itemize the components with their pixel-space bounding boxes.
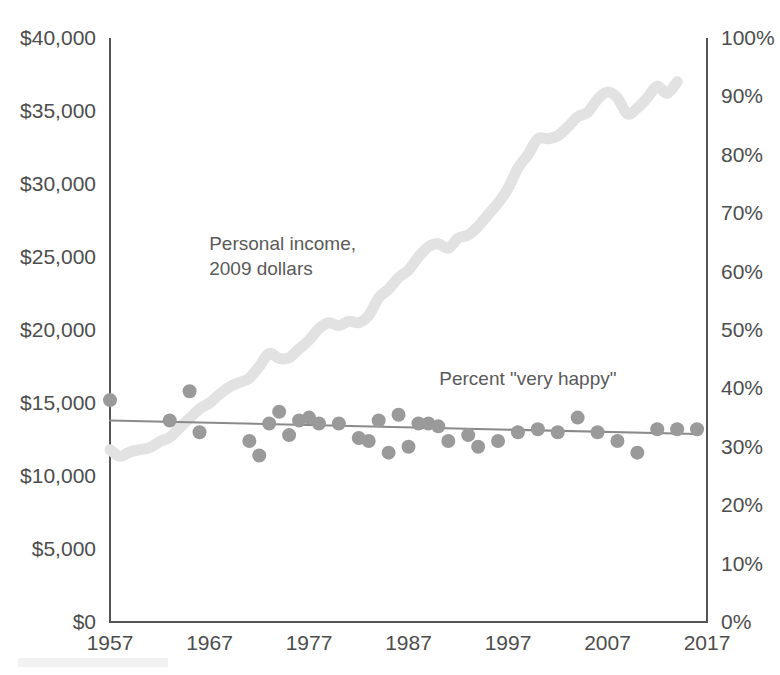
scatter-point	[312, 416, 326, 430]
y-right-tick-label: 70%	[721, 201, 763, 224]
scatter-point	[402, 440, 416, 454]
chart-canvas: $0$5,000$10,000$15,000$20,000$25,000$30,…	[0, 0, 780, 675]
scatter-point	[571, 411, 585, 425]
happy-scatter-series	[103, 384, 704, 462]
y-left-tick-label: $20,000	[20, 318, 96, 341]
x-tick-label: 1967	[186, 631, 233, 654]
scatter-point	[242, 434, 256, 448]
income-line-path	[110, 82, 677, 457]
y-right-tick-label: 20%	[721, 493, 763, 516]
scatter-point	[531, 422, 545, 436]
y-right-tick-label: 90%	[721, 84, 763, 107]
scatter-point	[690, 422, 704, 436]
y-left-tick-label: $5,000	[32, 537, 96, 560]
scatter-point	[252, 449, 266, 463]
axis-frame	[110, 38, 707, 622]
scatter-point	[670, 422, 684, 436]
y-right-tick-label: 0%	[721, 610, 751, 633]
scatter-point	[441, 434, 455, 448]
y-left-tick-label: $0	[73, 610, 96, 633]
x-tick-label: 1977	[286, 631, 333, 654]
scatter-point	[272, 405, 286, 419]
y-right-tick-label: 80%	[721, 143, 763, 166]
scatter-point	[511, 425, 525, 439]
y-left-tick-label: $10,000	[20, 464, 96, 487]
scatter-point	[282, 428, 296, 442]
scatter-point	[262, 416, 276, 430]
y-axis-right-ticks: 0%10%20%30%40%50%60%70%80%90%100%	[721, 26, 775, 633]
x-axis-ticks: 1957196719771987199720072017	[87, 631, 731, 654]
scatter-point	[362, 434, 376, 448]
scatter-point	[372, 414, 386, 428]
scatter-point	[650, 422, 664, 436]
scatter-point	[382, 446, 396, 460]
y-left-tick-label: $25,000	[20, 245, 96, 268]
y-right-tick-label: 100%	[721, 26, 775, 49]
footer-artifact	[18, 658, 168, 667]
y-right-tick-label: 30%	[721, 435, 763, 458]
y-axis-left-ticks: $0$5,000$10,000$15,000$20,000$25,000$30,…	[20, 26, 96, 633]
scatter-point	[183, 384, 197, 398]
y-right-tick-label: 10%	[721, 552, 763, 575]
x-tick-label: 1957	[87, 631, 134, 654]
y-right-tick-label: 40%	[721, 376, 763, 399]
x-tick-label: 2007	[584, 631, 631, 654]
axes-group	[110, 38, 707, 622]
x-tick-label: 2017	[684, 631, 731, 654]
scatter-point	[163, 414, 177, 428]
happy-annotation-line: Percent "very happy"	[439, 368, 616, 389]
scatter-point	[103, 393, 117, 407]
y-left-tick-label: $15,000	[20, 391, 96, 414]
scatter-point	[551, 425, 565, 439]
income-annotation-line: Personal income,	[209, 233, 356, 254]
y-left-tick-label: $30,000	[20, 172, 96, 195]
income-line-series	[110, 82, 677, 457]
scatter-point	[471, 440, 485, 454]
y-right-tick-label: 60%	[721, 260, 763, 283]
y-right-tick-label: 50%	[721, 318, 763, 341]
y-left-tick-label: $40,000	[20, 26, 96, 49]
scatter-point	[491, 434, 505, 448]
scatter-point	[431, 419, 445, 433]
scatter-point	[461, 428, 475, 442]
income-annotation-line: 2009 dollars	[209, 258, 313, 279]
scatter-point	[193, 425, 207, 439]
y-left-tick-label: $35,000	[20, 99, 96, 122]
scatter-point	[332, 416, 346, 430]
scatter-point	[591, 425, 605, 439]
x-tick-label: 1997	[485, 631, 532, 654]
x-tick-label: 1987	[385, 631, 432, 654]
scatter-point	[630, 446, 644, 460]
scatter-point	[610, 434, 624, 448]
scatter-point	[392, 408, 406, 422]
chart-container: $0$5,000$10,000$15,000$20,000$25,000$30,…	[0, 0, 780, 675]
